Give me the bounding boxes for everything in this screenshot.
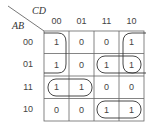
row-label: 11 — [18, 82, 38, 92]
kmap-cell: 0 — [69, 54, 94, 77]
kmap-cell: 1 — [119, 99, 144, 122]
kmap-cell: 0 — [69, 31, 94, 54]
kmap-cell: 1 — [94, 54, 119, 77]
col-label: 00 — [44, 16, 69, 26]
col-label: 01 — [69, 16, 94, 26]
kmap-cell: 0 — [69, 99, 94, 122]
kmap-cell: 1 — [44, 54, 69, 77]
kmap-cell: 0 — [44, 99, 69, 122]
kmap-cell: 1 — [44, 76, 69, 99]
kmap-cell: 1 — [69, 76, 94, 99]
row-variable-label: AB — [12, 20, 24, 31]
kmap-cell: 1 — [44, 31, 69, 54]
kmap-cell: 0 — [94, 31, 119, 54]
row-label: 00 — [18, 37, 38, 47]
col-label: 10 — [119, 16, 144, 26]
kmap-cell: 0 — [94, 76, 119, 99]
col-variable-label: CD — [32, 5, 46, 16]
row-label: 01 — [18, 59, 38, 69]
kmap-cell: 0 — [119, 76, 144, 99]
row-label: 10 — [18, 104, 38, 114]
kmap-cell: 1 — [119, 54, 144, 77]
col-label: 11 — [94, 16, 119, 26]
kmap-cell: 1 — [94, 99, 119, 122]
kmap-cell: 1 — [119, 31, 144, 54]
